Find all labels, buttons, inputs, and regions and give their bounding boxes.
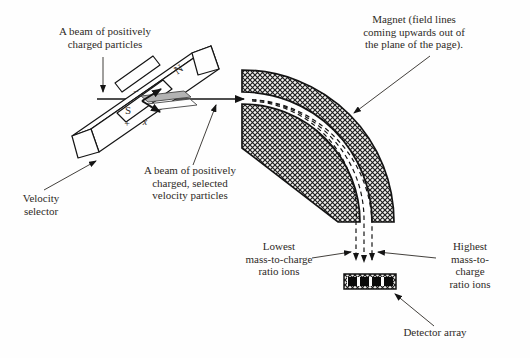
velocity-selector-pointer	[44, 161, 96, 190]
lowest-ions-pointer	[312, 252, 351, 258]
diagram-canvas: N S − + x	[0, 0, 530, 358]
detector-array	[344, 274, 396, 289]
beam-source-label: A beam of positively charged particles	[59, 25, 151, 50]
minus-plate-label: −	[133, 86, 139, 97]
velocity-selector-label: Velocity selector	[23, 192, 60, 217]
detector-pointer	[395, 294, 434, 326]
field-into-page-label: x	[142, 116, 148, 127]
detector-label: Detector array	[403, 326, 466, 339]
magnet-label: Magnet (field lines coming upwards out o…	[363, 13, 465, 51]
sector-magnet	[242, 70, 394, 222]
lowest-ions-label: Lowest mass-to-charge ratio ions	[246, 240, 313, 278]
highest-ions-label: Highest mass-to-charge ratio ions	[440, 240, 500, 290]
selected-beam-label: A beam of positively charged, selected v…	[144, 164, 236, 202]
mass-spectrometer-diagram: N S − + x A beam	[0, 0, 530, 358]
highest-ions-pointer	[378, 252, 436, 258]
south-pole-label: S	[125, 104, 131, 116]
plus-plate-label: +	[124, 118, 130, 129]
magnet-pointer	[354, 56, 430, 113]
selected-beam-pointer	[193, 105, 216, 165]
